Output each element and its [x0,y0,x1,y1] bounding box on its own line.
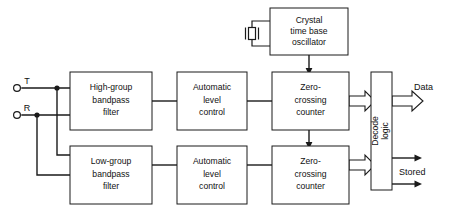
block-low-group-filter-line2: bandpass [92,169,129,179]
block-arrow-data-output [392,91,423,111]
block-counter-bottom-line1: Zero- [300,156,321,166]
block-high-group-filter-line1: High-group [90,82,133,92]
wire-xtal-bottom [252,40,270,46]
block-low-group-filter-line3: filter [103,181,119,191]
block-high-group-filter-line2: bandpass [92,95,129,105]
arrowhead-stored-lower [415,181,423,188]
block-low-group-filter-line1: Low-group [91,156,132,166]
block-counter-top-line1: Zero- [300,82,321,92]
terminal-circle-r [14,112,21,119]
block-crystal-oscillator-line2: time base [290,26,327,36]
block-decode-logic-line1: Decode [370,116,380,146]
output-label-data: Data [414,82,433,92]
output-label-stored: Stored [399,167,426,177]
block-alc-top-line1: Automatic [193,82,232,92]
block-high-group-filter-line3: filter [103,107,119,117]
block-counter-bottom-line3: counter [296,181,325,191]
block-alc-top-line2: level [203,95,221,105]
wire-t-branch-down [57,88,70,155]
block-counter-top-line2: crossing [295,95,327,105]
wire-r-branch-down [37,115,70,175]
block-alc-top-line3: control [199,107,225,117]
block-counter-top-line3: counter [296,107,325,117]
block-counter-bottom-line2: crossing [295,169,327,179]
block-alc-bottom-line3: control [199,181,225,191]
junction-dot-r [34,112,39,117]
block-decode-logic-line2: logic [380,121,390,139]
block-alc-bottom-line2: level [203,169,221,179]
terminal-circle-t [14,85,21,92]
arrowhead-stored-upper [415,155,423,162]
crystal-body-icon [249,28,256,40]
block-alc-bottom-line1: Automatic [193,156,232,166]
wire-xtal-top [252,21,270,27]
terminal-label-t: T [24,76,30,86]
block-crystal-oscillator-line3: oscillator [292,37,326,47]
terminal-label-r: R [24,103,31,113]
block-diagram: Crystal time base oscillator High-group … [0,0,449,214]
junction-dot-t [54,85,59,90]
block-crystal-oscillator-line1: Crystal [296,15,323,25]
